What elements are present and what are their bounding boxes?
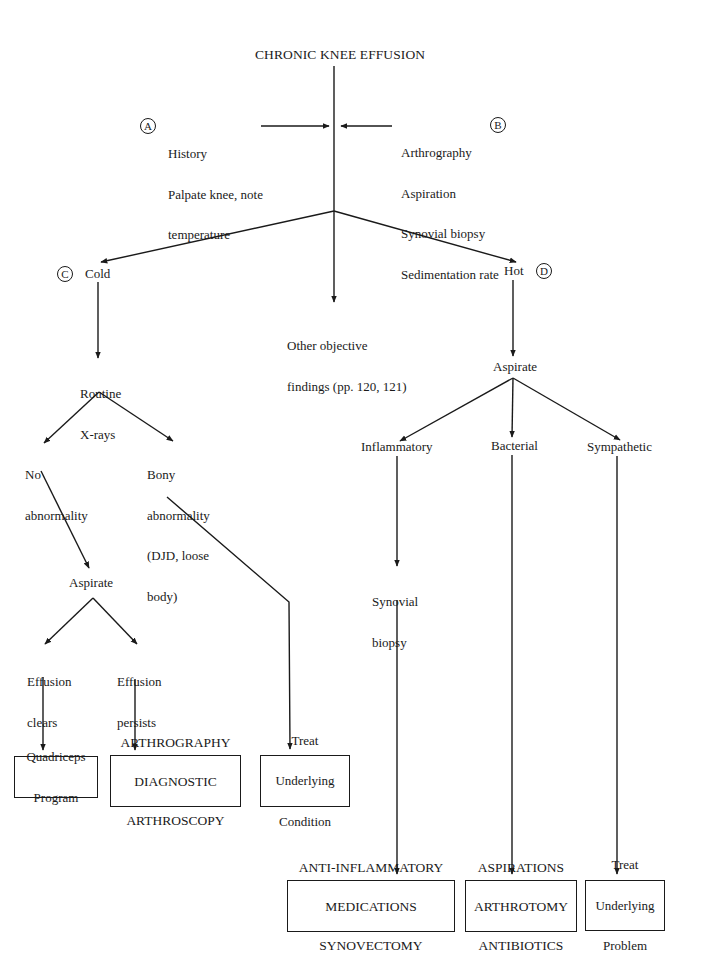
bony-line: Bony [147,468,210,482]
effusion-persists-line: Effusion [117,675,162,689]
hot-label: Hot [504,264,524,278]
step-a-line: Palpate knee, note [168,188,263,202]
step-a-text: History Palpate knee, note temperature [168,120,263,255]
bony-line: abnormality [147,509,210,523]
step-b-line: Synovial biopsy [401,227,499,241]
outcome-line: Treat [275,734,334,748]
outcome-line: ARTHROTOMY [474,900,568,913]
hot-aspirate-label: Aspirate [493,360,537,374]
arrow-effusion-clears [45,598,93,644]
step-b-line: Arthrography [401,146,499,160]
badge-c: C [57,266,73,282]
outcome-line: SYNOVECTOMY [299,939,444,952]
outcome-line: Problem [595,939,654,953]
flowchart-edges [0,0,701,969]
outcome-line: ANTI-INFLAMMATORY [299,861,444,874]
outcome-aspirations: ASPIRATIONS ARTHROTOMY ANTIBIOTICS [465,880,577,932]
badge-a: A [140,118,156,134]
outcome-text: Treat Underlying Problem [595,831,654,969]
outcome-line: ARTHROGRAPHY [120,736,230,749]
no-abnormality-line: No [25,468,88,482]
synovial-line: biopsy [372,636,418,650]
outcome-line: ARTHROSCOPY [120,814,230,827]
step-b-line: Sedimentation rate [401,268,499,282]
other-line: findings (pp. 120, 121) [287,380,407,394]
outcome-line: Quadriceps [26,750,85,764]
bacterial-label: Bacterial [491,439,538,453]
effusion-clears-line: Effusion [27,675,72,689]
outcome-quadriceps-program: Quadriceps Program [14,756,98,798]
other-findings-text: Other objective findings (pp. 120, 121) [287,312,407,407]
outcome-text: Quadriceps Program [26,723,85,831]
bony-line: body) [147,590,210,604]
cold-aspirate-label: Aspirate [69,576,113,590]
badge-b: B [490,117,506,133]
outcome-line: Condition [275,815,334,829]
arrow-inflammatory [400,378,513,441]
outcome-line: ASPIRATIONS [474,861,568,874]
synovial-line: Synovial [372,595,418,609]
outcome-line: DIAGNOSTIC [120,775,230,788]
outcome-line: Underlying [275,774,334,788]
inflammatory-label: Inflammatory [361,440,432,454]
sympathetic-label: Sympathetic [587,440,652,454]
outcome-line: Treat [595,858,654,872]
arrow-effusion-persists [93,598,137,644]
bony-abnormality-text: Bony abnormality (DJD, loose body) [147,441,210,617]
outcome-text: Treat Underlying Condition [275,707,334,856]
synovial-biopsy-text: Synovial biopsy [372,568,418,663]
xray-line: Routine [80,387,121,401]
outcome-line: Underlying [595,899,654,913]
no-abnormality-line: abnormality [25,509,88,523]
outcome-arthrography: ARTHROGRAPHY DIAGNOSTIC ARTHROSCOPY [110,755,241,807]
other-line: Other objective [287,339,407,353]
outcome-line: Program [26,791,85,805]
step-b-line: Aspiration [401,187,499,201]
arrow-sympathetic [513,378,620,440]
outcome-treat-underlying-problem: Treat Underlying Problem [585,880,665,931]
outcome-text: ARTHROGRAPHY DIAGNOSTIC ARTHROSCOPY [120,710,230,853]
outcome-line: MEDICATIONS [299,900,444,913]
outcome-text: ASPIRATIONS ARTHROTOMY ANTIBIOTICS [474,835,568,969]
diagram-title: CHRONIC KNEE EFFUSION [255,48,425,62]
outcome-text: ANTI-INFLAMMATORY MEDICATIONS SYNOVECTOM… [299,835,444,969]
arrow-bacterial [512,378,513,437]
step-a-line: History [168,147,263,161]
no-abnormality-text: No abnormality [25,441,88,536]
outcome-treat-underlying-condition: Treat Underlying Condition [260,755,350,807]
outcome-anti-inflammatory: ANTI-INFLAMMATORY MEDICATIONS SYNOVECTOM… [287,880,455,932]
step-b-text: Arthrography Aspiration Synovial biopsy … [401,119,499,295]
step-a-line: temperature [168,228,263,242]
badge-d: D [536,263,552,279]
bony-line: (DJD, loose [147,549,210,563]
xray-line: X-rays [80,428,121,442]
outcome-line: ANTIBIOTICS [474,939,568,952]
cold-label: Cold [85,267,110,281]
